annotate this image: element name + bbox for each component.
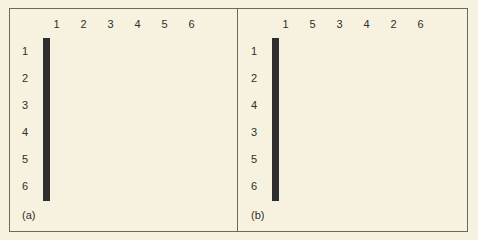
empty-cell [278,66,279,93]
empty-cell [278,93,279,120]
grid-row [44,93,50,120]
column-label: 1 [43,18,70,30]
column-label: 1 [272,18,299,30]
column-label: 5 [299,18,326,30]
grid-row [44,66,50,93]
grid-row [273,120,279,147]
row-label: 2 [17,65,33,92]
grid-row [273,93,279,120]
panel-a-label: (a) [22,209,35,221]
row-label: 1 [246,38,262,65]
empty-cell [278,39,279,66]
grid-row [273,39,279,66]
row-label: 5 [246,146,262,173]
column-label: 3 [326,18,353,30]
matrix-grid [272,38,279,201]
grid-row [273,66,279,93]
figure-frame [9,8,468,232]
empty-cell [49,39,50,66]
row-label: 2 [246,65,262,92]
empty-cell [49,93,50,120]
filled-cell [278,174,279,201]
column-label: 4 [353,18,380,30]
row-label: 6 [246,173,262,200]
empty-cell [49,147,50,174]
grid-row [44,147,50,174]
grid-row [44,39,50,66]
row-label: 3 [17,92,33,119]
matrix-grid [43,38,50,201]
row-label: 4 [246,92,262,119]
grid-row [44,174,50,201]
column-label: 2 [70,18,97,30]
grid-row [44,120,50,147]
column-label: 5 [151,18,178,30]
grid-row [273,147,279,174]
column-label: 3 [97,18,124,30]
panel-divider [237,8,238,231]
empty-cell [278,120,279,147]
empty-cell [49,66,50,93]
row-label: 3 [246,119,262,146]
empty-cell [278,147,279,174]
column-label: 6 [407,18,434,30]
row-label: 5 [17,146,33,173]
row-label: 1 [17,38,33,65]
panel-b-label: (b) [251,209,264,221]
column-label: 2 [380,18,407,30]
column-label: 6 [178,18,205,30]
filled-cell [49,174,50,201]
row-label: 4 [17,119,33,146]
column-label: 4 [124,18,151,30]
grid-row [273,174,279,201]
empty-cell [49,120,50,147]
row-label: 6 [17,173,33,200]
